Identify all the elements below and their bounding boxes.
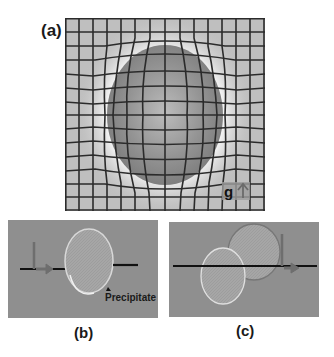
gravity-label: g — [224, 183, 233, 200]
panel-a-grid-diagram: g g — [65, 18, 265, 211]
lower-disk — [201, 248, 245, 304]
deformed-grid-figure: g — [65, 18, 265, 211]
panel-c-diagram — [169, 222, 319, 317]
panel-b-diagram: Precipitate — [8, 220, 158, 318]
panel-c-label: (c) — [236, 322, 254, 339]
gravity-indicator: g — [222, 182, 250, 200]
panel-a-label: (a) — [41, 21, 62, 41]
precipitate-annotation: Precipitate — [105, 292, 156, 303]
precipitate-disk — [65, 229, 113, 293]
panel-b-label: (b) — [74, 324, 93, 341]
